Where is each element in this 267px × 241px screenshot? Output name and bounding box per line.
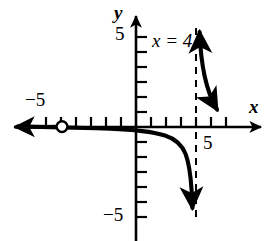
asymptote-label: x = 4 (152, 31, 192, 50)
x-tick-label-minus-5: −5 (25, 90, 45, 109)
hole-open-circle (57, 121, 68, 132)
curve-left-branch (18, 126, 192, 208)
graph-figure: y x 5 −5 −5 5 x = 4 (0, 0, 267, 241)
curve-right-branch (200, 32, 217, 110)
graph-canvas (0, 0, 267, 241)
y-axis-ticks-positive (136, 37, 147, 112)
y-axis-ticks-negative (136, 142, 147, 217)
y-tick-label-minus-5: −5 (103, 205, 123, 224)
x-axis-label: x (249, 97, 259, 116)
y-tick-label-5: 5 (115, 24, 125, 43)
x-tick-label-5: 5 (203, 133, 213, 152)
y-axis-label: y (114, 3, 122, 22)
